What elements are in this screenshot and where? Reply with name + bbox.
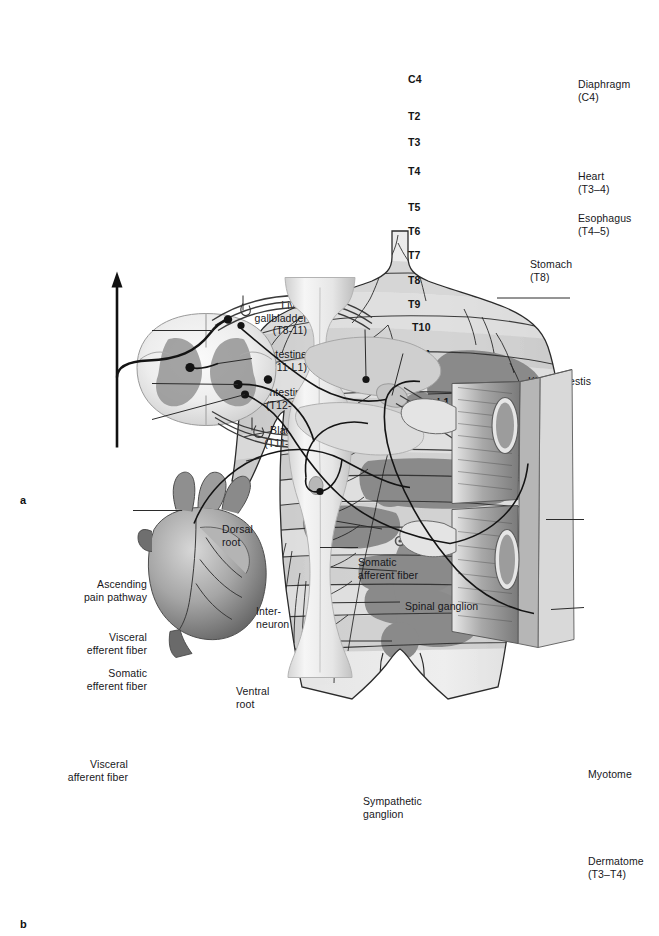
label-visceral-efferent-fiber-line-1: Visceral	[87, 631, 147, 644]
zone-heart	[427, 350, 544, 430]
label-ventral-root-line-1: Ventral	[236, 685, 269, 698]
label-visceral-efferent-fiber-line-2: efferent fiber	[87, 644, 147, 657]
dermatome-label-c4: C4	[408, 74, 422, 85]
label-stomach: Stomach(T8)	[530, 258, 572, 283]
label-diaphragm: Diaphragm(C4)	[578, 78, 630, 103]
leader-stomach	[470, 475, 522, 478]
label-somatic-afferent-fiber: Somaticafferent fiber	[358, 556, 418, 581]
label-visceral-afferent-fiber-line-2: afferent fiber	[68, 771, 128, 784]
label-large-intestine: Large intestine(T12-L1)	[237, 386, 307, 411]
label-dorsal-root-line-2: root	[222, 536, 253, 549]
label-bladder-line-2: (T11–L1)	[264, 437, 307, 450]
leader-esophagus	[398, 406, 570, 432]
label-ascending-pain-pathway-line-1: Ascending	[84, 578, 147, 591]
label-stomach-line-1: Stomach	[530, 258, 572, 271]
dermatome-label-t6: T6	[408, 226, 421, 237]
label-somatic-efferent-fiber-line-1: Somatic	[87, 667, 147, 680]
label-kidney-testis-line-2: (T10–L1)	[528, 388, 591, 401]
label-bladder: Bladder(T11–L1)	[264, 424, 307, 449]
label-visceral-afferent-fiber-line-1: Visceral	[68, 758, 128, 771]
dermatome-label-t9: T9	[408, 299, 421, 310]
label-bladder-line-1: Bladder	[264, 424, 307, 437]
label-diaphragm-line-2: (C4)	[578, 91, 630, 104]
label-sympathetic-ganglion-line-2: ganglion	[363, 808, 422, 821]
zone-diaphragm	[454, 256, 489, 301]
label-liver-gallbladder-line-3: (T8-11)	[255, 324, 307, 337]
label-dermatome-line-2: (T3–T4)	[588, 868, 644, 881]
label-liver-gallbladder-line-2: gallbladder	[255, 312, 307, 325]
dermatome-label-t4: T4	[408, 166, 421, 177]
dermatome-label-t11: T11	[413, 349, 431, 360]
label-small-intestine: Small intestine(T11-L1)	[237, 348, 307, 373]
label-liver-gallbladder-line-1: Liver,	[255, 299, 307, 312]
label-diaphragm-line-1: Diaphragm	[578, 78, 630, 91]
leader-dermatome	[551, 608, 584, 610]
label-sympathetic-ganglion-line-1: Sympathetic	[363, 795, 422, 808]
dermatome-label-t5: T5	[408, 202, 421, 213]
label-myotome-line-1: Myotome	[588, 768, 632, 781]
label-dermatome-line-1: Dermatome	[588, 855, 644, 868]
label-large-intestine-line-1: Large intestine	[237, 386, 307, 399]
panel-letter-b: b	[20, 918, 27, 930]
label-small-intestine-line-1: Small intestine	[237, 348, 307, 361]
label-dorsal-root-line-1: Dorsal	[222, 523, 253, 536]
zone-stomach	[359, 458, 516, 509]
label-heart: Heart(T3–4)	[578, 170, 610, 195]
label-large-intestine-line-2: (T12-L1)	[237, 399, 307, 412]
label-sympathetic-ganglion: Sympatheticganglion	[363, 795, 422, 820]
label-interneuron: Inter-neuron	[256, 605, 289, 630]
label-interneuron-line-2: neuron	[256, 618, 289, 631]
label-liver-gallbladder: Liver,gallbladder(T8-11)	[255, 299, 307, 337]
dermatome-label-l1: L1	[437, 397, 450, 408]
label-somatic-efferent-fiber: Somaticefferent fiber	[87, 667, 147, 692]
label-ventral-root-line-2: root	[236, 698, 269, 711]
dermatome-label-t3: T3	[408, 137, 421, 148]
figure-page: C4T2T3T4T5T6T7T8T9T10T11T12L1 Diaphragm(…	[0, 0, 659, 936]
label-heart-line-2: (T3–4)	[578, 183, 610, 196]
panel-b-referred-pain-mechanism: Ascendingpain pathwayVisceralefferent fi…	[0, 505, 659, 936]
label-somatic-efferent-fiber-line-2: efferent fiber	[87, 680, 147, 693]
label-visceral-afferent-fiber: Visceralafferent fiber	[68, 758, 128, 783]
label-myotome: Myotome	[588, 768, 632, 781]
label-ascending-pain-pathway: Ascendingpain pathway	[84, 578, 147, 603]
panel-a-referred-pain-zones: C4T2T3T4T5T6T7T8T9T10T11T12L1 Diaphragm(…	[0, 0, 659, 510]
label-dorsal-root: Dorsalroot	[222, 523, 253, 548]
label-esophagus: Esophagus(T4–5)	[578, 212, 631, 237]
label-ascending-pain-pathway-line-2: pain pathway	[84, 591, 147, 604]
label-somatic-afferent-fiber-line-1: Somatic	[358, 556, 418, 569]
label-kidney-testis-line-1: Kidney, testis	[528, 375, 591, 388]
dermatome-label-t7: T7	[408, 250, 421, 261]
label-heart-line-1: Heart	[578, 170, 610, 183]
zone-esophagus	[404, 392, 436, 418]
label-spinal-ganglion: Spinal ganglion	[405, 600, 478, 613]
label-somatic-afferent-fiber-line-2: afferent fiber	[358, 569, 418, 582]
dermatome-label-t8: T8	[408, 275, 421, 286]
label-esophagus-line-1: Esophagus	[578, 212, 631, 225]
dermatome-label-t12: T12	[413, 376, 432, 387]
dermatome-label-t2: T2	[408, 111, 421, 122]
dermatome-label-t10: T10	[412, 322, 431, 333]
label-interneuron-line-1: Inter-	[256, 605, 289, 618]
label-ventral-root: Ventralroot	[236, 685, 269, 710]
label-spinal-ganglion-line-1: Spinal ganglion	[405, 600, 478, 613]
label-visceral-efferent-fiber: Visceralefferent fiber	[87, 631, 147, 656]
label-stomach-line-2: (T8)	[530, 271, 572, 284]
label-dermatome: Dermatome(T3–T4)	[588, 855, 644, 880]
label-esophagus-line-2: (T4–5)	[578, 225, 631, 238]
label-small-intestine-line-2: (T11-L1)	[237, 361, 307, 374]
label-kidney-testis: Kidney, testis(T10–L1)	[528, 375, 591, 400]
